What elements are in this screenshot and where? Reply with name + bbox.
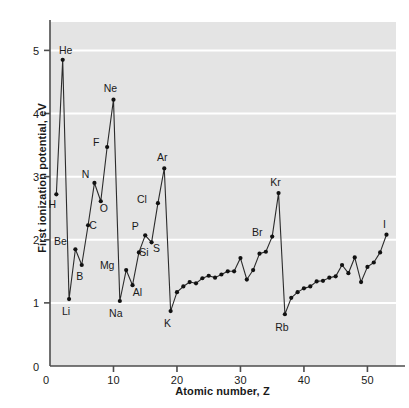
- element-label-Br: Br: [252, 226, 263, 238]
- data-point: [181, 284, 185, 288]
- data-point: [365, 265, 369, 269]
- data-point: [194, 281, 198, 285]
- element-label-O: O: [100, 202, 108, 214]
- element-label-Al: Al: [133, 286, 142, 298]
- data-point: [353, 255, 357, 259]
- element-label-P: P: [132, 220, 139, 232]
- data-point: [111, 98, 115, 102]
- data-point: [188, 280, 192, 284]
- data-point: [378, 250, 382, 254]
- data-point: [143, 233, 147, 237]
- data-point: [92, 181, 96, 185]
- data-point: [359, 280, 363, 284]
- data-point: [283, 312, 287, 316]
- data-point: [54, 192, 58, 196]
- data-point: [156, 201, 160, 205]
- data-point: [80, 263, 84, 267]
- y-axis-title: First ionization potential, eV: [36, 58, 48, 298]
- data-point: [238, 256, 242, 260]
- data-point: [207, 274, 211, 278]
- data-point: [334, 274, 338, 278]
- element-label-Si: Si: [139, 246, 148, 258]
- figure-container: 01234501020304050HHeLiBeBCNOFNeNaMgAlSiP…: [0, 0, 409, 408]
- element-label-S: S: [153, 242, 160, 254]
- data-point: [67, 297, 71, 301]
- x-axis-ticks: 01020304050: [43, 366, 374, 386]
- data-point: [372, 260, 376, 264]
- data-point: [257, 252, 261, 256]
- data-point: [200, 276, 204, 280]
- data-point: [226, 269, 230, 273]
- element-label-K: K: [164, 317, 171, 329]
- data-point: [162, 166, 166, 170]
- element-label-Cl: Cl: [137, 193, 147, 205]
- data-point: [289, 296, 293, 300]
- data-point: [73, 247, 77, 251]
- data-point: [270, 235, 274, 239]
- element-label-Kr: Kr: [270, 176, 281, 188]
- element-label-N: N: [82, 168, 90, 180]
- data-point: [327, 276, 331, 280]
- element-label-He: He: [59, 44, 73, 56]
- element-label-H: H: [49, 198, 57, 210]
- x-tick-label-0: 0: [43, 374, 49, 386]
- element-label-Ar: Ar: [157, 151, 168, 163]
- element-label-I: I: [383, 218, 386, 230]
- element-label-F: F: [93, 136, 99, 148]
- data-point: [175, 290, 179, 294]
- data-point: [213, 276, 217, 280]
- data-point: [276, 191, 280, 195]
- element-label-Rb: Rb: [275, 321, 289, 333]
- data-point: [264, 250, 268, 254]
- element-label-Na: Na: [109, 307, 123, 319]
- element-label-Be: Be: [54, 235, 67, 247]
- element-label-C: C: [89, 219, 97, 231]
- data-point: [384, 233, 388, 237]
- data-point: [296, 290, 300, 294]
- y-tick-label-5: 5: [33, 45, 39, 57]
- data-point: [169, 309, 173, 313]
- data-point: [105, 145, 109, 149]
- data-point: [302, 286, 306, 290]
- data-point: [308, 284, 312, 288]
- data-point: [315, 279, 319, 283]
- element-label-Mg: Mg: [100, 259, 115, 271]
- data-point: [219, 272, 223, 276]
- data-point: [61, 58, 65, 62]
- x-axis-title: Atomic number, Z: [50, 385, 395, 397]
- ionization-potential-chart: 01234501020304050HHeLiBeBCNOFNeNaMgAlSiP…: [0, 0, 409, 408]
- data-point: [245, 277, 249, 281]
- data-point: [118, 299, 122, 303]
- data-point: [346, 271, 350, 275]
- y-tick-label-0: 0: [33, 361, 39, 373]
- data-point: [321, 279, 325, 283]
- data-point: [340, 263, 344, 267]
- element-label-B: B: [76, 270, 83, 282]
- data-point: [124, 268, 128, 272]
- data-point: [232, 269, 236, 273]
- data-point: [251, 268, 255, 272]
- element-label-Li: Li: [62, 305, 70, 317]
- element-label-Ne: Ne: [104, 82, 118, 94]
- y-tick-label-1: 1: [33, 297, 39, 309]
